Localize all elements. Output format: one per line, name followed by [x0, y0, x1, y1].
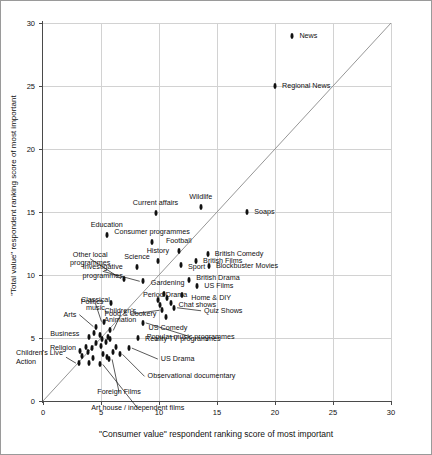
data-point — [164, 314, 167, 320]
data-point — [180, 262, 183, 268]
point-label: US Drama — [161, 355, 195, 363]
point-label: Art house / independent films — [91, 404, 184, 412]
data-point — [173, 305, 176, 311]
data-point — [93, 330, 96, 336]
y-tick — [39, 149, 43, 150]
gridline-vertical — [391, 23, 392, 401]
y-tick-label: 10 — [17, 271, 35, 280]
data-point — [199, 204, 202, 210]
data-point — [156, 258, 159, 264]
point-label-line: Action — [16, 357, 63, 365]
point-label: Regional News — [282, 82, 330, 90]
x-axis-title: "Consumer value" respondent ranking scor… — [1, 429, 431, 439]
data-point — [105, 354, 108, 360]
data-point — [154, 210, 157, 216]
point-label: Quiz Shows — [204, 307, 242, 315]
data-point — [118, 351, 121, 357]
data-point — [127, 345, 130, 351]
point-label: Investigativeprogrammes — [83, 263, 123, 280]
data-point — [141, 320, 144, 326]
y-tick-label: 5 — [17, 334, 35, 343]
data-point — [81, 353, 84, 359]
point-label: Children'sAnimation — [104, 307, 136, 324]
x-tick — [333, 401, 334, 405]
y-tick-label: 30 — [17, 19, 35, 28]
data-point — [77, 360, 80, 366]
x-tick-label: 15 — [213, 408, 221, 417]
x-tick — [217, 401, 218, 405]
x-tick-label: 20 — [271, 408, 279, 417]
point-label: Period Drama — [143, 290, 187, 298]
x-tick-label: 25 — [329, 408, 337, 417]
y-tick-label: 15 — [17, 208, 35, 217]
point-label: Blockbuster Movies — [216, 262, 278, 270]
data-point — [123, 276, 126, 282]
data-point — [110, 300, 113, 306]
data-point — [109, 336, 112, 342]
point-label: Children's LiveAction — [16, 349, 63, 366]
point-label: Observational documentary — [148, 372, 236, 380]
point-label: Arts — [64, 310, 77, 318]
x-tick — [391, 401, 392, 405]
point-label: Wildlife — [189, 193, 212, 201]
data-point — [87, 349, 90, 355]
y-tick-label: 25 — [17, 82, 35, 91]
x-tick — [43, 401, 44, 405]
y-tick-label: 0 — [17, 397, 35, 406]
data-point — [88, 360, 91, 366]
plot-area — [43, 23, 391, 401]
data-point — [91, 355, 94, 361]
data-point — [105, 232, 108, 238]
data-point — [109, 327, 112, 333]
data-point — [291, 33, 294, 39]
data-point — [159, 302, 162, 308]
point-label: US Films — [204, 282, 233, 290]
data-point — [90, 345, 93, 351]
data-point — [161, 307, 164, 313]
x-tick-label: 30 — [387, 408, 395, 417]
y-tick-label: 20 — [17, 145, 35, 154]
y-tick — [39, 338, 43, 339]
data-point — [141, 278, 144, 284]
point-label: Reality TV programmes — [145, 335, 220, 343]
data-point — [98, 361, 101, 367]
chart-figure: 051015202530051015202530 NewsRegional Ne… — [0, 0, 432, 455]
data-point — [274, 83, 277, 89]
data-point — [95, 324, 98, 330]
data-point — [115, 344, 118, 350]
data-point — [151, 239, 154, 245]
y-tick — [39, 401, 43, 402]
data-point — [88, 334, 91, 340]
y-tick — [39, 212, 43, 213]
y-tick — [39, 23, 43, 24]
point-label: Soaps — [254, 208, 274, 216]
data-point — [111, 349, 114, 355]
point-label: History — [147, 247, 169, 255]
y-axis-title: "Total value" respondent ranking score o… — [9, 16, 18, 376]
point-label: Sport — [188, 263, 205, 271]
data-point — [135, 264, 138, 270]
point-label: US Comedy — [149, 323, 188, 331]
data-point — [196, 283, 199, 289]
point-label: Football — [166, 237, 192, 245]
point-label: Science — [124, 253, 150, 261]
point-label: Current affairs — [133, 199, 178, 207]
data-point — [246, 209, 249, 215]
y-tick — [39, 86, 43, 87]
point-label-line: programmes — [83, 271, 123, 279]
point-label-line: Animation — [104, 315, 136, 323]
data-point — [169, 300, 172, 306]
point-label: News — [299, 31, 317, 39]
x-tick-label: 0 — [41, 408, 45, 417]
data-point — [79, 348, 82, 354]
data-point — [95, 340, 98, 346]
data-point — [137, 335, 140, 341]
point-label: Foreign Films — [97, 388, 141, 396]
x-tick — [275, 401, 276, 405]
point-label: Business — [50, 330, 79, 338]
y-tick — [39, 275, 43, 276]
data-point — [100, 343, 103, 349]
point-label: Gardening — [151, 279, 185, 287]
data-point — [188, 277, 191, 283]
data-point — [177, 248, 180, 254]
